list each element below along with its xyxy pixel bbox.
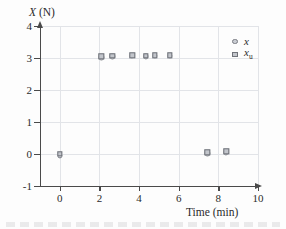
data-point-square [99, 54, 104, 59]
page-text-bleed [6, 222, 280, 227]
y-axis-tick-label: 1 [6, 117, 32, 128]
data-point-square [129, 52, 134, 57]
x-axis-tick-label: 2 [87, 193, 111, 204]
data-point-square [57, 151, 62, 156]
legend-label-xu: xu [244, 47, 253, 62]
x-axis-tick [99, 186, 100, 191]
y-axis-tick [34, 26, 40, 27]
y-axis-line [40, 26, 41, 186]
x-axis-tick-label: 4 [127, 193, 151, 204]
x-axis-tick [218, 186, 219, 191]
x-axis-tick-label: 8 [206, 193, 230, 204]
data-point-square [205, 150, 210, 155]
legend-entry-x: x [231, 36, 277, 47]
x-axis-tick-label: 10 [246, 193, 270, 204]
y-axis-tick-label: 2 [6, 85, 32, 96]
gridline-horizontal [40, 26, 258, 27]
y-axis-title: X (N) [29, 6, 55, 18]
legend-square-marker-icon [231, 52, 239, 57]
figure: X (N) 43210-10246810 Time (min) x xu [0, 0, 286, 229]
gridline-vertical [60, 26, 61, 186]
gridline-vertical [179, 26, 180, 186]
plot-area [40, 26, 258, 186]
y-axis-tick [34, 186, 40, 187]
legend-circle-marker-icon [231, 39, 239, 44]
data-point-square [110, 53, 115, 58]
legend: x xu [231, 36, 277, 62]
y-axis-tick-label: 0 [6, 149, 32, 160]
gridline-horizontal [40, 90, 258, 91]
gridline-vertical [99, 26, 100, 186]
x-axis-tick [179, 186, 180, 191]
y-axis-title-unit: (N) [39, 6, 55, 18]
data-point-square [224, 149, 229, 154]
x-axis-tick [258, 186, 259, 191]
data-point-square [167, 52, 172, 57]
x-axis-tick-label: 0 [48, 193, 72, 204]
legend-entry-xu: xu [231, 49, 277, 60]
y-axis-tick-label: 3 [6, 53, 32, 64]
data-point-square [143, 53, 148, 58]
x-axis-tick [139, 186, 140, 191]
x-axis-tick [60, 186, 61, 191]
gridline-horizontal [40, 58, 258, 59]
y-axis-tick [34, 90, 40, 91]
gridline-vertical [218, 26, 219, 186]
gridline-vertical [139, 26, 140, 186]
y-axis-tick [34, 122, 40, 123]
gridline-horizontal [40, 122, 258, 123]
y-axis-tick [34, 154, 40, 155]
data-point-square [152, 53, 157, 58]
x-axis-tick-label: 6 [167, 193, 191, 204]
x-axis-line [40, 186, 258, 187]
y-axis-tick-label: 4 [6, 21, 32, 32]
y-axis-title-variable: X [29, 6, 36, 18]
y-axis-tick-label: -1 [6, 181, 32, 192]
y-axis-tick [34, 58, 40, 59]
x-axis-title: Time (min) [186, 206, 238, 218]
